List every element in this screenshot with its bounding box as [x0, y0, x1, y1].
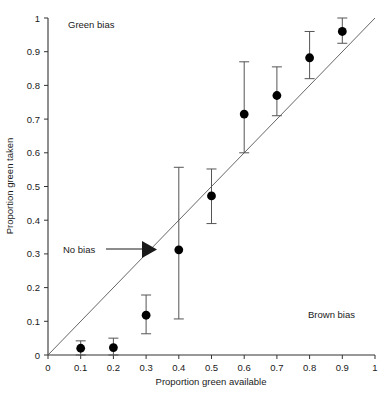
error-bar [239, 62, 249, 153]
brown-bias-label: Brown bias [308, 309, 355, 320]
x-axis-tick-labels: 00.10.20.30.40.50.60.70.80.91 [45, 362, 377, 373]
x-axis-title: Proportion green available [156, 376, 267, 387]
x-tick-label: 0.6 [238, 362, 251, 373]
data-point [240, 110, 249, 119]
y-tick-label: 0.8 [27, 80, 40, 91]
x-tick-label: 0.7 [270, 362, 283, 373]
y-tick-label: 0.6 [27, 147, 40, 158]
x-tick-label: 1 [372, 362, 377, 373]
green-bias-label: Green bias [68, 19, 115, 30]
y-tick-label: 0.4 [27, 215, 40, 226]
chart-figure: 00.10.20.30.40.50.60.70.80.91 00.10.20.3… [0, 0, 391, 401]
y-tick-label: 0.2 [27, 282, 40, 293]
x-tick-label: 0.2 [107, 362, 120, 373]
y-axis-tick-labels: 00.10.20.30.40.50.60.70.80.91 [27, 13, 40, 361]
data-point [109, 343, 118, 352]
x-tick-label: 0.1 [74, 362, 87, 373]
x-tick-label: 0.8 [303, 362, 316, 373]
data-point [207, 192, 216, 201]
y-tick-label: 0.5 [27, 181, 40, 192]
scatter-plot: 00.10.20.30.40.50.60.70.80.91 00.10.20.3… [0, 0, 391, 401]
y-axis-title: Proportion green taken [4, 138, 15, 235]
data-point [76, 344, 85, 353]
x-tick-label: 0 [45, 362, 50, 373]
y-tick-label: 0.7 [27, 114, 40, 125]
data-point [273, 91, 282, 100]
x-tick-label: 0.9 [336, 362, 349, 373]
x-tick-label: 0.5 [205, 362, 218, 373]
y-tick-label: 0.3 [27, 248, 40, 259]
y-tick-label: 1 [35, 13, 40, 24]
y-axis-ticks [44, 18, 48, 355]
x-axis-ticks [48, 355, 375, 359]
x-tick-label: 0.3 [139, 362, 152, 373]
data-point [305, 53, 314, 62]
data-point [174, 245, 183, 254]
no-bias-arrow-head [142, 241, 157, 258]
x-tick-label: 0.4 [172, 362, 185, 373]
data-point [338, 27, 347, 36]
y-tick-label: 0.9 [27, 46, 40, 57]
no-bias-label: No bias [63, 244, 95, 255]
error-bars-group [76, 18, 348, 355]
y-tick-label: 0.1 [27, 316, 40, 327]
data-point [142, 311, 151, 320]
no-bias-annotation [106, 241, 157, 258]
error-bar [174, 167, 184, 319]
y-tick-label: 0 [35, 350, 40, 361]
